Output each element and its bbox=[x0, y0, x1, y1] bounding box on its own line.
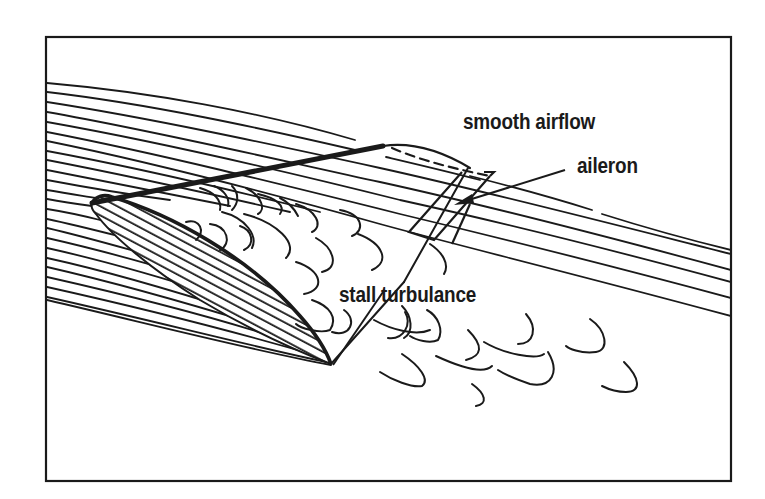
smooth-airflow-label: smooth airflow bbox=[463, 111, 595, 133]
stall-turbulence-label: stall turbulance bbox=[339, 284, 476, 306]
aileron-label: aileron bbox=[577, 155, 638, 177]
wing-stall-diagram bbox=[0, 0, 765, 499]
diagram-stage: smooth airflow aileron stall turbulance bbox=[0, 0, 765, 499]
